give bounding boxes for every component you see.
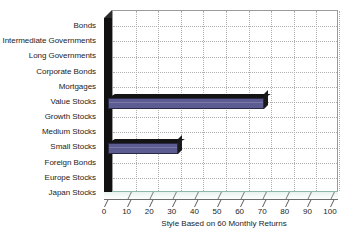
bar xyxy=(108,94,264,105)
x-axis-tick xyxy=(307,200,311,207)
bar-front-face xyxy=(108,98,264,109)
x-axis-tick-label: 20 xyxy=(145,207,154,216)
category-label: Europe Stocks xyxy=(0,173,96,182)
x-axis-tick xyxy=(172,200,176,207)
vertical-gridline xyxy=(271,11,272,191)
vertical-gridline xyxy=(316,11,317,191)
category-label: Bonds xyxy=(0,21,96,30)
vertical-gridline xyxy=(339,11,340,191)
style-analysis-bar-chart: BondsIntermediate GovernmentsLong Govern… xyxy=(0,0,353,232)
category-label: Long Governments xyxy=(0,51,96,60)
x-axis-tick-label: 10 xyxy=(122,207,131,216)
horizontal-gridline xyxy=(113,117,337,118)
x-axis-tick xyxy=(127,200,131,207)
horizontal-gridline xyxy=(113,178,337,179)
x-axis-title: Style Based on 60 Monthly Returns xyxy=(104,219,344,228)
category-label: Japan Stocks xyxy=(0,188,96,197)
category-label: Medium Stocks xyxy=(0,127,96,136)
category-label: Foreign Bonds xyxy=(0,158,96,167)
x-axis-tick-label: 100 xyxy=(323,207,336,216)
x-axis-tick-label: 90 xyxy=(303,207,312,216)
horizontal-gridline xyxy=(113,26,337,27)
category-label: Growth Stocks xyxy=(0,112,96,121)
bar-front-face xyxy=(108,143,178,154)
horizontal-gridline xyxy=(113,87,337,88)
x-axis-tick xyxy=(149,200,153,207)
bar xyxy=(108,139,178,150)
category-label: Value Stocks xyxy=(0,97,96,106)
plot-floor-back-edge xyxy=(112,191,338,192)
x-axis-tick xyxy=(240,200,244,207)
x-axis-tick xyxy=(217,200,221,207)
x-axis-tick xyxy=(194,200,198,207)
x-axis-tick xyxy=(330,200,334,207)
x-axis-tick-label: 80 xyxy=(280,207,289,216)
x-axis-tick xyxy=(104,200,108,207)
category-label: Mortgages xyxy=(0,82,96,91)
x-axis-tick-label: 70 xyxy=(258,207,267,216)
category-label: Corporate Bonds xyxy=(0,67,96,76)
x-axis-tick-label: 40 xyxy=(190,207,199,216)
category-axis-labels: BondsIntermediate GovernmentsLong Govern… xyxy=(0,10,96,200)
x-axis-tick-label: 60 xyxy=(235,207,244,216)
value-axis: 0102030405060708090100 xyxy=(104,200,344,214)
left-wall-top-bevel xyxy=(104,10,112,18)
horizontal-gridline xyxy=(113,72,337,73)
horizontal-gridline xyxy=(113,57,337,58)
value-axis-wall xyxy=(104,18,112,200)
vertical-gridline xyxy=(294,11,295,191)
category-label: Intermediate Governments xyxy=(0,36,96,45)
category-label: Small Stocks xyxy=(0,142,96,151)
horizontal-gridline xyxy=(113,41,337,42)
x-axis-tick-label: 50 xyxy=(213,207,222,216)
horizontal-gridline xyxy=(113,163,337,164)
horizontal-gridline xyxy=(113,132,337,133)
x-axis-tick xyxy=(285,200,289,207)
x-axis-tick xyxy=(262,200,266,207)
x-axis-tick-label: 0 xyxy=(102,207,106,216)
plot-area xyxy=(104,10,338,200)
x-axis-tick-label: 30 xyxy=(167,207,176,216)
